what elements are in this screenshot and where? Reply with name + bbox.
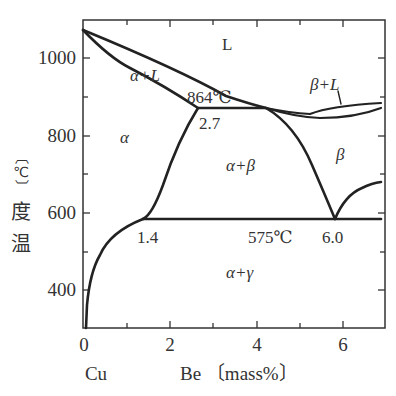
y-axis-title: 〔℃〕 度 温 xyxy=(8,150,34,256)
annotation-1-4: 1.4 xyxy=(137,228,159,247)
annotation-2-7: 2.7 xyxy=(199,114,221,133)
phase-diagram: 1000 800 600 400 0 2 4 6 Cu Be 〔mass%〕 L… xyxy=(0,0,396,396)
y-axis-char-do: 度 xyxy=(8,200,34,224)
annotation-6-0: 6.0 xyxy=(322,228,343,247)
y-tick-800: 800 xyxy=(48,125,77,146)
y-tick-1000: 1000 xyxy=(38,47,76,68)
region-beta: β xyxy=(335,145,345,164)
y-tick-400: 400 xyxy=(48,279,77,300)
region-alpha-beta: α+β xyxy=(226,156,255,175)
alpha-solvus-lower xyxy=(86,219,143,328)
x-left-label: Cu xyxy=(85,363,108,384)
region-alpha-gamma: α+γ xyxy=(226,263,254,282)
beta-alpha-boundary xyxy=(266,108,335,219)
annotation-864C: 864℃ xyxy=(187,88,232,107)
liquidus-alpha xyxy=(83,30,266,108)
y-tick-600: 600 xyxy=(48,202,77,223)
x-tick-6: 6 xyxy=(338,334,348,355)
region-L: L xyxy=(222,35,232,54)
x-axis-title: Be 〔mass%〕 xyxy=(180,363,298,384)
y-axis-char-bracket: 〔℃〕 xyxy=(9,150,33,194)
alpha-solvus-upper xyxy=(143,108,198,219)
annotation-575C: 575℃ xyxy=(248,228,293,247)
x-tick-2: 2 xyxy=(165,334,175,355)
region-alpha: α xyxy=(120,128,130,147)
region-alpha-L: α+L xyxy=(130,66,160,85)
x-tick-0: 0 xyxy=(79,334,89,355)
region-beta-L: β+L xyxy=(309,75,339,94)
x-tick-4: 4 xyxy=(252,334,262,355)
y-axis-char-on: 温 xyxy=(8,232,34,256)
beta-gamma-boundary xyxy=(335,182,381,219)
